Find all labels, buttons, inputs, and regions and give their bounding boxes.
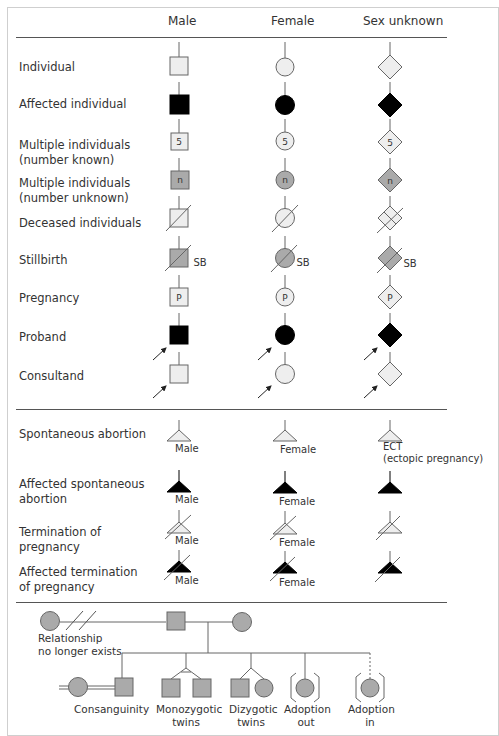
svg-text:SB: SB bbox=[296, 257, 309, 268]
svg-text:5: 5 bbox=[176, 137, 182, 147]
deceased-row bbox=[166, 196, 403, 233]
svg-text:5: 5 bbox=[282, 137, 288, 147]
pregnancy-row bbox=[170, 275, 402, 309]
svg-text:n: n bbox=[282, 175, 288, 185]
svg-text:n: n bbox=[177, 175, 183, 185]
affected-row bbox=[170, 82, 402, 117]
svg-text:P: P bbox=[387, 293, 393, 303]
svg-text:n: n bbox=[387, 176, 393, 186]
svg-text:SB: SB bbox=[403, 258, 416, 269]
abortion-symbols bbox=[164, 420, 402, 582]
svg-text:P: P bbox=[282, 293, 288, 303]
proband-row bbox=[170, 313, 402, 347]
individual-row bbox=[170, 42, 402, 79]
svg-text:P: P bbox=[176, 293, 182, 303]
relationship-pedigree bbox=[41, 611, 385, 702]
svg-text:5: 5 bbox=[387, 138, 393, 148]
svg-text:SB: SB bbox=[193, 257, 206, 268]
